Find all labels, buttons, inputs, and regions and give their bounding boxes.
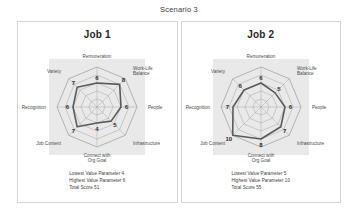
axis-label: Recognition (185, 105, 210, 110)
radar-chart-job-1: 68654767RemunerationWork-LifeBalancePeop… (18, 44, 177, 166)
total-score-job-2: Total Score 55 (231, 184, 290, 191)
highest-value-job-1: Highest Value Parameter 6 (69, 177, 125, 184)
job-panel-1: Job 1 68654767RemunerationWork-LifeBalan… (17, 21, 178, 203)
axis-label: Remuneration (246, 54, 275, 59)
axis-label: Variety (211, 69, 226, 74)
panel-title-job-1: Job 1 (18, 29, 177, 40)
axis-label: Job Content (200, 141, 225, 146)
radar-chart-job-2: 656781076RemunerationWork-LifeBalancePeo… (182, 44, 341, 166)
caption-job-1: Lowest Value Parameter 4 Highest Value P… (18, 170, 177, 193)
job-panel-2: Job 2 656781076RemunerationWork-LifeBala… (181, 21, 342, 203)
axis-label: Infrastructure (297, 141, 325, 146)
caption-job-2: Lowest Value Parameter 5 Highest Value P… (182, 170, 341, 193)
axis-label: Job Content (36, 141, 61, 146)
axis-label: Work-LifeBalance (133, 66, 153, 76)
axis-label: Recognition (22, 105, 47, 110)
axis-label: Infrastructure (133, 141, 161, 146)
lowest-value-job-2: Lowest Value Parameter 5 (231, 170, 290, 177)
axis-label: Variety (47, 69, 62, 74)
lowest-value-job-1: Lowest Value Parameter 4 (69, 170, 125, 177)
axis-label: People (312, 105, 327, 110)
scenario-figure: Scenario 3 Job 1 68654767RemunerationWor… (0, 0, 358, 216)
axis-label: Work-LifeBalance (297, 66, 317, 76)
axis-label: Remuneration (83, 54, 112, 59)
axis-label: Connect withOrg Goal (84, 153, 111, 163)
highest-value-job-2: Highest Value Parameter 10 (231, 177, 290, 184)
panel-title-job-2: Job 2 (182, 29, 341, 40)
value-label: 10 (225, 136, 232, 142)
axis-label: Connect withOrg Goal (247, 153, 274, 163)
axis-label: People (148, 105, 163, 110)
scenario-title: Scenario 3 (0, 5, 358, 14)
job-panels: Job 1 68654767RemunerationWork-LifeBalan… (17, 21, 341, 203)
total-score-job-1: Total Score 51 (69, 184, 125, 191)
